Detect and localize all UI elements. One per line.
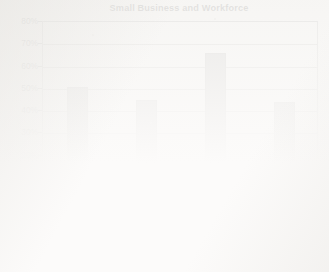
scan-speckle	[60, 266, 62, 268]
y-axis-tick-label: 40%	[4, 105, 38, 115]
x-axis-category-line: Generate 65%	[181, 206, 248, 217]
x-axis-tick-mark	[180, 200, 181, 205]
bar	[67, 87, 88, 198]
scan-speckle	[40, 144, 43, 146]
x-axis-category-line: payroll	[112, 227, 179, 238]
x-axis-tick-mark	[111, 200, 112, 205]
y-axis-tick-mark	[38, 155, 42, 156]
y-axis-tick-label: 50%	[4, 83, 38, 93]
x-axis-category-line: of new jobs	[181, 217, 248, 228]
x-axis-category-label: Pay 44% ofprivate-sectorpayroll	[111, 206, 180, 254]
y-axis-tick-mark	[38, 110, 42, 111]
x-axis-tick-mark	[249, 200, 250, 205]
x-axis-labels: Employ 50% ofall private-sectoremployees…	[42, 206, 318, 254]
y-axis-tick-mark	[38, 21, 42, 22]
x-axis-category-line: Pay 44% of	[112, 206, 179, 217]
x-axis-category-label: Generate 65%of new jobs	[180, 206, 249, 254]
x-axis-category-line: Employ 50% of	[43, 206, 110, 217]
y-axis-tick-label: 20%	[4, 150, 38, 160]
scan-speckle	[214, 18, 216, 20]
y-axis-tick-label: 70%	[4, 38, 38, 48]
gridline	[43, 67, 317, 68]
x-axis-category-line: all private-sector	[43, 217, 110, 228]
scan-speckle	[120, 268, 122, 270]
scan-speckle	[92, 34, 94, 36]
x-axis-category-line: employees	[43, 227, 110, 238]
y-axis-tick-label: 60%	[4, 61, 38, 71]
x-axis-category-line: workers	[250, 227, 317, 238]
scan-speckle	[18, 262, 21, 265]
x-axis-category-line: private-sector	[112, 217, 179, 228]
y-axis-tick-label: 0%	[4, 194, 38, 204]
bar	[136, 100, 157, 198]
y-axis-tick-mark	[38, 43, 42, 44]
y-axis-tick-mark	[38, 199, 42, 200]
scan-speckle	[150, 122, 152, 124]
plot-area	[42, 21, 318, 199]
y-axis-tick-mark	[38, 132, 42, 133]
y-axis-tick-mark	[38, 177, 42, 178]
x-axis-category-line: Hire 43% of	[250, 206, 317, 217]
y-axis-tick-mark	[38, 66, 42, 67]
bar	[205, 53, 226, 198]
gridline	[43, 44, 317, 45]
y-axis-tick-label: 10%	[4, 172, 38, 182]
y-axis-tick-label: 30%	[4, 127, 38, 137]
y-axis-labels: 80%70%60%50%40%30%20%10%0%	[0, 21, 38, 199]
y-axis-tick-mark	[38, 88, 42, 89]
x-axis-category-label: Hire 43% ofhigh-techworkers	[249, 206, 318, 254]
y-axis-tick-label: 80%	[4, 16, 38, 26]
x-axis-category-label: Employ 50% ofall private-sectoremployees	[42, 206, 111, 254]
chart-title: Small Business and Workforce	[40, 3, 318, 13]
chart-page: Small Business and Workforce 80%70%60%50…	[0, 0, 329, 272]
bar	[274, 102, 295, 198]
x-axis-category-line: high-tech	[250, 217, 317, 228]
